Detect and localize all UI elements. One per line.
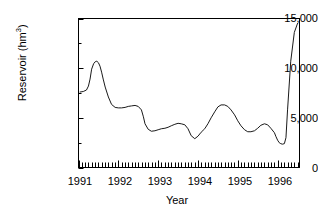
plot-area [0,0,318,212]
x-axis-ticks [80,161,299,168]
axis-frame [79,19,300,168]
chart-figure: Reservoir (hm3) 15,000 10,000 5,000 0 19… [0,0,318,212]
axis-frame-rect [79,19,300,168]
data-line-reservoir [80,23,297,144]
y-axis-ticks [79,20,84,169]
